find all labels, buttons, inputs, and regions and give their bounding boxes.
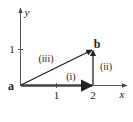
y-tick-label-1: 1 xyxy=(9,43,15,55)
vector-i-label: (i) xyxy=(66,71,75,83)
vector-iii-label: (iii) xyxy=(39,53,54,65)
y-axis-label: y xyxy=(24,6,30,18)
vector-diagram: 1 2 1 x y (i) (ii) (iii) a b xyxy=(0,0,133,122)
x-tick-label-2: 2 xyxy=(90,89,96,101)
vector-ii-label: (ii) xyxy=(100,61,112,73)
point-a-label: a xyxy=(8,79,14,93)
point-b-label: b xyxy=(94,37,101,51)
x-axis-label: x xyxy=(119,88,125,100)
x-tick-label-1: 1 xyxy=(54,89,60,101)
vectors: (i) (ii) (iii) xyxy=(21,50,112,86)
vector-iii xyxy=(21,50,92,85)
